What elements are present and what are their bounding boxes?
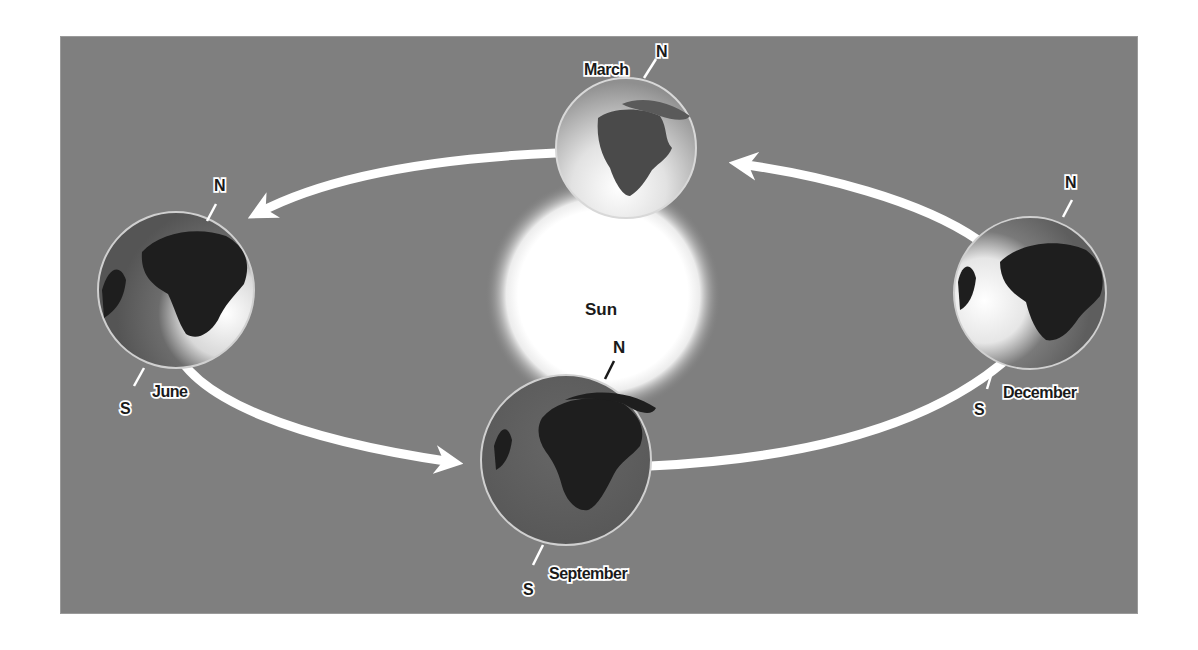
south-pole-label-september: S (523, 581, 534, 598)
globe-label-march: March (584, 61, 629, 78)
north-pole-label-december: N (1065, 174, 1076, 191)
north-pole-label-september: N (613, 338, 625, 357)
arrow-march-to-june (258, 153, 556, 213)
south-pole-label-december: S (974, 401, 985, 418)
arrow-september-to-december (650, 342, 1025, 466)
globe-march: March N (556, 43, 696, 218)
south-pole-label-june: S (120, 400, 131, 417)
north-pole-label-march: N (656, 43, 667, 60)
north-pole-label-june: N (214, 177, 225, 194)
globe-june: N S June (98, 177, 254, 417)
globe-label-june: June (152, 383, 188, 400)
globe-label-september: September (549, 565, 627, 582)
sun-label: Sun (585, 300, 617, 319)
orbit-diagram: Sun March N N S June N S September (0, 0, 1198, 650)
arrow-june-to-september (172, 342, 452, 462)
globe-label-december: December (1003, 384, 1077, 401)
arrow-december-to-march (740, 164, 978, 240)
